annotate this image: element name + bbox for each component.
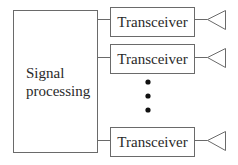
antenna-icon — [208, 132, 226, 151]
ellipsis-dot — [145, 79, 150, 84]
transceiver-label: Transceiver — [117, 51, 187, 67]
ellipsis-dot — [145, 107, 150, 112]
signal-processing-block: Signal processing — [14, 11, 98, 153]
transceiver-group-1: Transceiver — [98, 8, 226, 37]
diagram-canvas: Signal processing Transceiver Transceive… — [0, 0, 238, 165]
transceiver-group-2: Transceiver — [98, 45, 226, 74]
signal-processing-label-line1: Signal — [26, 65, 64, 81]
signal-processing-box — [14, 11, 98, 153]
transceiver-label: Transceiver — [117, 134, 187, 150]
ellipsis-dot — [145, 93, 150, 98]
antenna-icon — [208, 11, 226, 30]
signal-processing-label-line2: processing — [26, 83, 91, 99]
transceiver-group-n: Transceiver — [98, 128, 226, 157]
transceiver-label: Transceiver — [117, 14, 187, 30]
antenna-icon — [208, 49, 226, 68]
vertical-ellipsis — [145, 79, 150, 112]
